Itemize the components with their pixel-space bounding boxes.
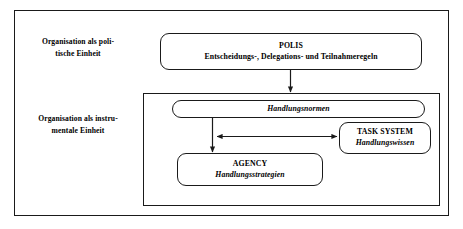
box-handlungsnormen[interactable]: Handlungsnormen [172,100,425,118]
box-task-system-subtitle: Handlungswissen [356,138,415,149]
row-label-political-unit: Organisation als poli- tische Einheit [18,36,138,60]
organisation-diagram: Organisation als poli- tische Einheit Or… [0,0,463,229]
row-label-instrumental-unit: Organisation als instru- mentale Einheit [14,113,142,137]
box-agency-title: AGENCY [233,159,267,170]
box-polis-subtitle: Entscheidungs-, Delegations- und Teilnah… [204,52,377,63]
box-agency-subtitle: Handlungsstrategien [215,170,285,181]
box-handlungsnormen-title: Handlungsnormen [267,104,330,115]
box-agency[interactable]: AGENCY Handlungsstrategien [177,153,323,186]
box-polis[interactable]: POLIS Entscheidungs-, Delegations- und T… [160,33,422,70]
box-polis-title: POLIS [279,41,303,52]
box-task-system[interactable]: TASK SYSTEM Handlungswissen [339,122,431,154]
box-task-system-title: TASK SYSTEM [357,127,413,138]
